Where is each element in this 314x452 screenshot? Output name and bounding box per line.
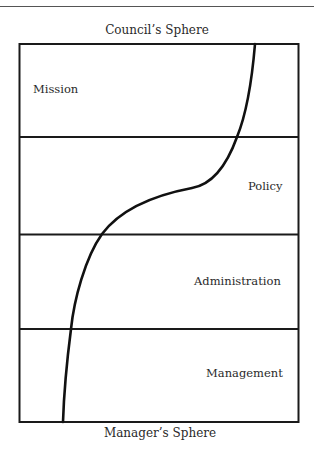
zone-label-management: Management xyxy=(206,366,283,380)
zone-label-administration: Administration xyxy=(194,274,281,288)
managers-sphere-caption: Manager’s Sphere xyxy=(104,426,216,440)
zone-label-mission: Mission xyxy=(33,82,78,96)
zone-label-policy: Policy xyxy=(248,179,283,193)
sphere-diagram xyxy=(0,0,314,452)
